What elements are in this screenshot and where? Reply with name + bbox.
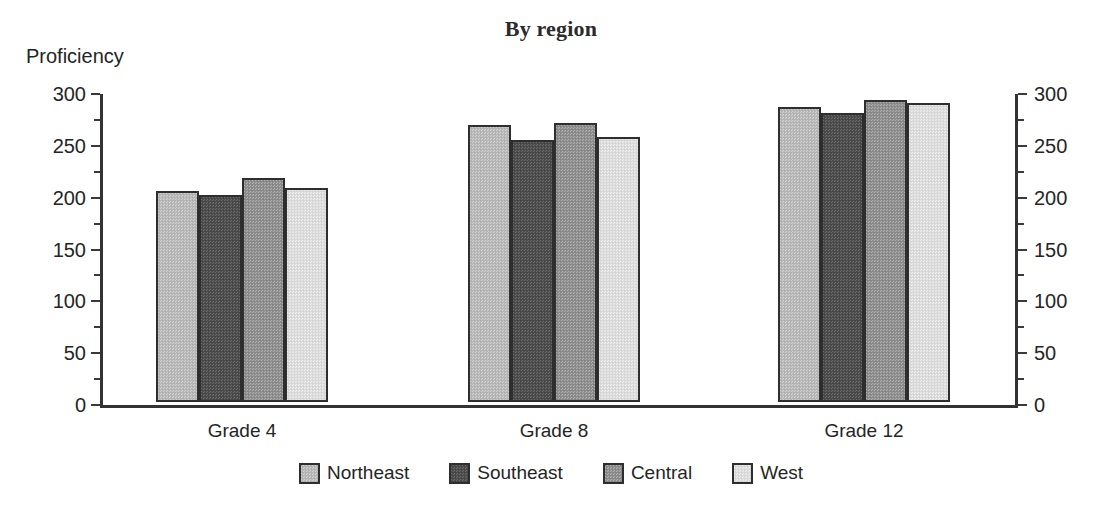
y-tick-label-right: 100 xyxy=(1034,291,1067,311)
legend-item-southeast[interactable]: Southeast xyxy=(449,462,563,484)
legend-label-northeast: Northeast xyxy=(327,462,409,484)
bar-west-grade-4 xyxy=(285,188,328,402)
y-tick-major-right xyxy=(1018,249,1027,251)
y-tick-minor-right xyxy=(1018,274,1024,276)
y-tick-major-left xyxy=(91,352,100,354)
y-tick-major-left xyxy=(91,145,100,147)
legend-item-central[interactable]: Central xyxy=(603,462,692,484)
chart-title: By region xyxy=(0,16,1102,42)
y-tick-minor-right xyxy=(1018,378,1024,380)
y-tick-label-left: 300 xyxy=(53,84,86,104)
y-tick-minor-right xyxy=(1018,223,1024,225)
x-category-label-grade-12: Grade 12 xyxy=(778,420,950,442)
y-tick-minor-left xyxy=(94,223,100,225)
y-axis-left-line xyxy=(100,94,103,408)
y-tick-major-left xyxy=(91,197,100,199)
y-tick-minor-right xyxy=(1018,171,1024,173)
y-tick-label-right: 50 xyxy=(1034,343,1056,363)
bar-west-grade-8 xyxy=(597,137,640,402)
bar-central-grade-12 xyxy=(864,100,907,402)
legend-swatch-central xyxy=(603,463,624,484)
bar-northeast-grade-12 xyxy=(778,107,821,402)
y-tick-label-left: 100 xyxy=(53,291,86,311)
plot-area: 005050100100150150200200250250300300 xyxy=(100,94,1018,405)
y-tick-minor-right xyxy=(1018,119,1024,121)
legend-label-central: Central xyxy=(631,462,692,484)
legend-label-southeast: Southeast xyxy=(477,462,563,484)
y-tick-major-left xyxy=(91,300,100,302)
y-tick-major-right xyxy=(1018,300,1027,302)
bar-west-grade-12 xyxy=(907,103,950,402)
legend-item-northeast[interactable]: Northeast xyxy=(299,462,409,484)
y-tick-label-left: 200 xyxy=(53,188,86,208)
y-tick-major-right xyxy=(1018,352,1027,354)
y-tick-major-left xyxy=(91,404,100,406)
bar-northeast-grade-4 xyxy=(156,191,199,402)
bar-chart-figure: By region Proficiency 005050100100150150… xyxy=(0,0,1102,506)
bar-northeast-grade-8 xyxy=(468,125,511,402)
bar-southeast-grade-8 xyxy=(511,140,554,402)
y-tick-minor-left xyxy=(94,171,100,173)
y-tick-major-left xyxy=(91,93,100,95)
y-tick-minor-left xyxy=(94,119,100,121)
x-axis-line xyxy=(100,405,1018,408)
bar-southeast-grade-12 xyxy=(821,113,864,402)
y-tick-label-right: 150 xyxy=(1034,240,1067,260)
legend-label-west: West xyxy=(760,462,803,484)
y-tick-major-right xyxy=(1018,93,1027,95)
y-tick-label-left: 0 xyxy=(75,395,86,415)
y-tick-minor-left xyxy=(94,326,100,328)
y-tick-label-right: 200 xyxy=(1034,188,1067,208)
y-tick-label-left: 250 xyxy=(53,136,86,156)
legend-swatch-southeast xyxy=(449,463,470,484)
legend-item-west[interactable]: West xyxy=(732,462,803,484)
y-tick-label-right: 250 xyxy=(1034,136,1067,156)
y-tick-label-right: 0 xyxy=(1034,395,1045,415)
y-tick-label-left: 150 xyxy=(53,240,86,260)
bar-central-grade-8 xyxy=(554,123,597,402)
x-category-label-grade-4: Grade 4 xyxy=(156,420,328,442)
y-tick-major-right xyxy=(1018,145,1027,147)
legend-swatch-northeast xyxy=(299,463,320,484)
y-tick-major-left xyxy=(91,249,100,251)
y-tick-minor-left xyxy=(94,274,100,276)
bar-southeast-grade-4 xyxy=(199,195,242,402)
y-axis-right-line xyxy=(1015,94,1018,408)
y-tick-minor-left xyxy=(94,378,100,380)
y-tick-major-right xyxy=(1018,197,1027,199)
y-tick-major-right xyxy=(1018,404,1027,406)
bar-central-grade-4 xyxy=(242,178,285,402)
chart-legend: NortheastSoutheastCentralWest xyxy=(0,462,1102,484)
legend-swatch-west xyxy=(732,463,753,484)
y-axis-title: Proficiency xyxy=(26,45,124,68)
y-tick-label-left: 50 xyxy=(64,343,86,363)
x-category-label-grade-8: Grade 8 xyxy=(468,420,640,442)
y-tick-label-right: 300 xyxy=(1034,84,1067,104)
y-tick-minor-right xyxy=(1018,326,1024,328)
